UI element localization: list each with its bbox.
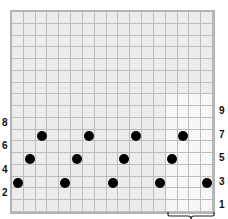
chart-cell: [71, 94, 83, 106]
chart-cell: [47, 36, 59, 48]
chart-cell: [166, 36, 178, 48]
chart-cell: [189, 47, 201, 59]
chart-cell: [201, 165, 213, 177]
chart-cell: [59, 188, 71, 200]
chart-cell: [95, 12, 107, 24]
chart-cell: [118, 165, 130, 177]
chart-cell: [83, 12, 95, 24]
chart-cell: [59, 130, 71, 142]
chart-cell: [178, 94, 190, 106]
stitch-dot: [155, 178, 165, 188]
chart-cell: [36, 94, 48, 106]
chart-cell: [118, 94, 130, 106]
chart-cell: [83, 47, 95, 59]
chart-cell: [166, 165, 178, 177]
chart-cell: [189, 83, 201, 95]
chart-cell: [201, 24, 213, 36]
chart-cell: [12, 94, 24, 106]
chart-cell: [24, 165, 36, 177]
chart-cell: [189, 177, 201, 189]
chart-cell: [47, 24, 59, 36]
chart-cell: [189, 141, 201, 153]
chart-cell: [118, 188, 130, 200]
chart-cell: [71, 130, 83, 142]
chart-cell: [59, 200, 71, 212]
chart-cell: [83, 118, 95, 130]
chart-cell: [12, 59, 24, 71]
chart-cell: [166, 83, 178, 95]
chart-cell: [36, 36, 48, 48]
chart-cell: [36, 12, 48, 24]
chart-cell: [189, 200, 201, 212]
chart-cell: [95, 165, 107, 177]
chart-cell: [178, 118, 190, 130]
knitting-chart: [10, 10, 215, 214]
chart-cell: [36, 47, 48, 59]
chart-cell: [142, 165, 154, 177]
chart-cell: [189, 71, 201, 83]
row-label-right: 9: [219, 106, 225, 116]
chart-cell: [83, 94, 95, 106]
chart-cell: [95, 36, 107, 48]
chart-cell: [71, 141, 83, 153]
chart-cell: [71, 71, 83, 83]
chart-cell: [36, 141, 48, 153]
chart-cell: [130, 47, 142, 59]
chart-cell: [130, 153, 142, 165]
chart-cell: [154, 12, 166, 24]
chart-cell: [130, 12, 142, 24]
chart-cell: [12, 106, 24, 118]
chart-cell: [71, 36, 83, 48]
chart-cell: [142, 118, 154, 130]
chart-cell: [166, 12, 178, 24]
chart-cell: [189, 188, 201, 200]
chart-cell: [59, 47, 71, 59]
stitch-dot: [37, 131, 47, 141]
stitch-dot: [167, 154, 177, 164]
chart-cell: [201, 36, 213, 48]
chart-cell: [130, 94, 142, 106]
chart-cell: [12, 200, 24, 212]
chart-cell: [36, 188, 48, 200]
chart-cell: [95, 71, 107, 83]
chart-cell: [178, 165, 190, 177]
chart-cell: [201, 106, 213, 118]
row-label-left: 2: [2, 188, 8, 198]
chart-cell: [47, 106, 59, 118]
chart-cell: [83, 59, 95, 71]
stitch-dot: [84, 131, 94, 141]
row-label-left: 4: [2, 165, 8, 175]
chart-cell: [36, 177, 48, 189]
chart-cell: [95, 94, 107, 106]
chart-cell: [95, 47, 107, 59]
chart-cell: [12, 24, 24, 36]
chart-cell: [118, 47, 130, 59]
chart-cell: [95, 200, 107, 212]
chart-cell: [59, 165, 71, 177]
chart-cell: [59, 36, 71, 48]
chart-cell: [36, 106, 48, 118]
chart-cell: [95, 177, 107, 189]
chart-cell: [59, 24, 71, 36]
chart-cell: [12, 165, 24, 177]
chart-cell: [47, 59, 59, 71]
chart-cell: [12, 118, 24, 130]
chart-cell: [142, 36, 154, 48]
chart-cell: [36, 71, 48, 83]
chart-cell: [118, 141, 130, 153]
chart-cell: [83, 177, 95, 189]
chart-cell: [71, 165, 83, 177]
chart-cell: [118, 36, 130, 48]
chart-cell: [36, 200, 48, 212]
chart-cell: [59, 106, 71, 118]
chart-cell: [201, 47, 213, 59]
chart-cell: [59, 141, 71, 153]
chart-cell: [83, 153, 95, 165]
chart-cell: [118, 130, 130, 142]
chart-cell: [95, 83, 107, 95]
chart-cell: [47, 118, 59, 130]
chart-cell: [107, 94, 119, 106]
chart-cell: [130, 106, 142, 118]
chart-cell: [130, 71, 142, 83]
chart-cell: [107, 130, 119, 142]
